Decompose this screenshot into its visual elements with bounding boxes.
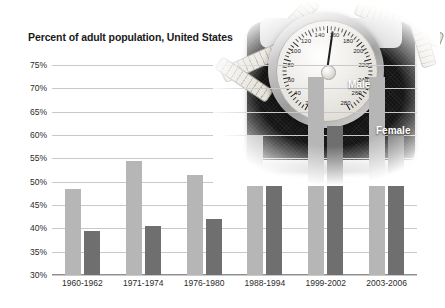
y-axis-tick-label: 70%	[30, 83, 47, 93]
bar-male-1960-1962	[65, 189, 81, 275]
y-axis-tick-label: 75%	[30, 60, 47, 70]
scale-dial-number: 180	[343, 38, 353, 44]
bar-female-1976-1980	[206, 219, 222, 275]
bar-female-2003-2006	[388, 131, 404, 275]
y-axis-tick-label: 30%	[30, 270, 47, 280]
bar-female-1988-1994	[266, 182, 282, 275]
gridline	[52, 252, 417, 253]
scale-dial-number: 140	[315, 32, 325, 38]
x-axis-tick-label: 1988-1994	[245, 278, 286, 288]
x-axis-tick-label: 1976-1980	[184, 278, 225, 288]
series-label-male: Male	[348, 79, 370, 90]
x-axis-tick-label: 1999-2002	[305, 278, 346, 288]
x-axis-tick-label: 2003-2006	[366, 278, 407, 288]
bar-female-1971-1974	[145, 226, 161, 275]
y-axis-tick-label: 65%	[30, 107, 47, 117]
x-axis-tick-label: 1960-1962	[62, 278, 103, 288]
gridline	[52, 158, 417, 159]
gridline	[52, 135, 417, 136]
bar-female-1999-2002	[327, 126, 343, 275]
bar-male-2003-2006	[369, 77, 385, 275]
gridline	[52, 228, 417, 229]
y-axis-tick-label: 35%	[30, 247, 47, 257]
bar-male-1976-1980	[187, 175, 203, 275]
y-axis-tick-label: 45%	[30, 200, 47, 210]
bar-male-1999-2002	[308, 77, 324, 275]
y-axis-tick-label: 60%	[30, 130, 47, 140]
scale-dial-number: 200	[353, 48, 363, 54]
gridline	[52, 65, 417, 66]
gridline	[52, 112, 417, 113]
chart-title: Percent of adult population, United Stat…	[28, 31, 233, 43]
bar-male-1971-1974	[126, 161, 142, 275]
scale-dial-number: 120	[301, 38, 311, 44]
scale-dial-number: 100	[291, 48, 301, 54]
plot-area: 75%70%65%60%55%50%45%40%35%30%1960-19621…	[52, 65, 417, 275]
gridline	[52, 182, 417, 183]
series-label-female: Female	[376, 125, 410, 136]
bar-female-1960-1962	[84, 231, 100, 275]
bar-male-1988-1994	[247, 135, 263, 275]
y-axis-tick-label: 50%	[30, 177, 47, 187]
x-axis-tick-label: 1971-1974	[123, 278, 164, 288]
y-axis-tick-label: 40%	[30, 223, 47, 233]
gridline	[52, 205, 417, 206]
gridline	[52, 275, 417, 276]
y-axis-tick-label: 55%	[30, 153, 47, 163]
